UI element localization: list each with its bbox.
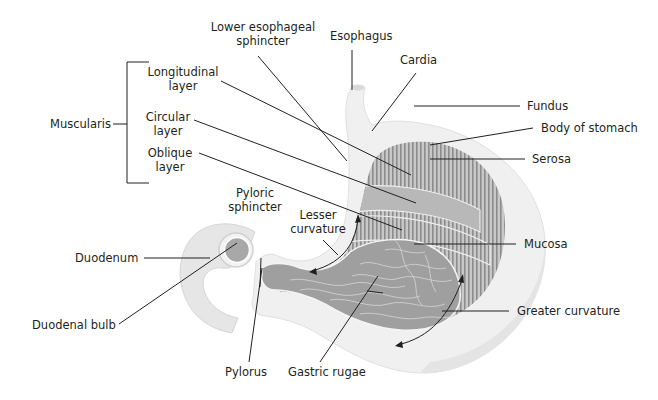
label-greater-curvature: Greater curvature xyxy=(517,304,620,318)
label-line: Oblique xyxy=(143,146,197,160)
label-line: layer xyxy=(143,160,197,174)
label-pyloric-sphincter: Pyloric sphincter xyxy=(225,186,285,214)
label-esophagus: Esophagus xyxy=(330,29,393,43)
label-longitudinal-layer: Longitudinal layer xyxy=(143,65,223,93)
label-line: curvature xyxy=(288,222,348,236)
label-line: sphincter xyxy=(208,34,318,48)
label-lower-esophageal-sphincter: Lower esophageal sphincter xyxy=(208,20,318,48)
label-lesser-curvature: Lesser curvature xyxy=(288,208,348,236)
label-line: Longitudinal xyxy=(143,65,223,79)
label-line: sphincter xyxy=(225,200,285,214)
label-line: Circular xyxy=(143,110,193,124)
label-duodenal-bulb: Duodenal bulb xyxy=(32,318,116,332)
label-line: layer xyxy=(143,124,193,138)
label-line: Pyloric xyxy=(225,186,285,200)
label-mucosa: Mucosa xyxy=(524,237,568,251)
label-serosa: Serosa xyxy=(532,152,571,166)
label-line: Lesser xyxy=(288,208,348,222)
duodenum-shape xyxy=(180,224,255,333)
label-oblique-layer: Oblique layer xyxy=(143,146,197,174)
label-duodenum: Duodenum xyxy=(75,251,138,265)
label-circular-layer: Circular layer xyxy=(143,110,193,138)
label-fundus: Fundus xyxy=(527,99,568,113)
label-muscularis: Muscularis xyxy=(50,117,111,131)
stomach-illustration xyxy=(0,0,658,400)
label-pylorus: Pylorus xyxy=(225,365,267,379)
label-gastric-rugae: Gastric rugae xyxy=(288,365,366,379)
stomach-anatomy-diagram: Lower esophageal sphincter Esophagus Car… xyxy=(0,0,658,400)
label-line: layer xyxy=(143,79,223,93)
label-body-of-stomach: Body of stomach xyxy=(541,121,638,135)
label-cardia: Cardia xyxy=(400,53,437,67)
label-line: Lower esophageal xyxy=(208,20,318,34)
